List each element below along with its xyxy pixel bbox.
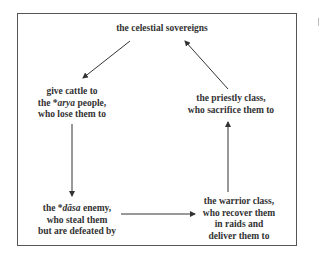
node-warrior-class: the warrior class, who recover them in r… [198, 196, 280, 242]
node-line: the priestly class, [183, 93, 279, 105]
node-line: who lose them to [30, 109, 114, 121]
text-fragment: people, [75, 98, 106, 108]
node-line: in raids and [198, 219, 280, 231]
node-line: the warrior class, [198, 196, 280, 208]
node-priestly-class: the priestly class, who sacrifice them t… [183, 93, 279, 116]
node-line: who recover them [198, 208, 280, 220]
node-line: who steal them [32, 215, 122, 227]
margin-mark [318, 18, 319, 26]
node-line: but are defeated by [32, 226, 122, 238]
node-line: the celestial sovereigns [100, 23, 224, 35]
node-arya-people: give cattle to the *arya people, who los… [30, 86, 114, 121]
node-line: the *dāsa enemy, [32, 203, 122, 215]
node-dasa-enemy: the *dāsa enemy, who steal them but are … [32, 203, 122, 238]
arrow-celestial-to-arya [83, 41, 130, 78]
node-line: the *arya people, [30, 98, 114, 110]
text-fragment: enemy, [81, 203, 112, 213]
node-line: give cattle to [30, 86, 114, 98]
text-fragment: the * [38, 98, 58, 108]
italic-term: arya [58, 98, 75, 108]
text-fragment: the * [43, 203, 63, 213]
italic-term: dāsa [63, 203, 81, 213]
node-celestial-sovereigns: the celestial sovereigns [100, 23, 224, 35]
node-line: who sacrifice them to [183, 105, 279, 117]
arrow-priestly-to-celestial [185, 41, 228, 89]
node-line: deliver them to [198, 231, 280, 243]
